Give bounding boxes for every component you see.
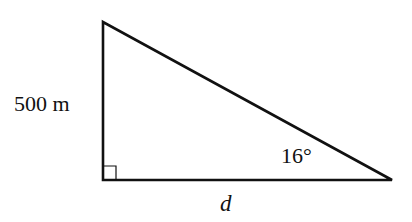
triangle-diagram: 500 m 16° d xyxy=(0,0,412,222)
right-angle-marker xyxy=(103,166,116,180)
angle-label: 16° xyxy=(281,143,312,168)
horizontal-side-label: d xyxy=(220,191,232,216)
vertical-side-label: 500 m xyxy=(14,91,70,116)
triangle-shape xyxy=(103,22,392,180)
